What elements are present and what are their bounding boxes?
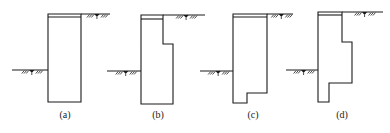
retained-ground-surface — [267, 14, 293, 19]
panel-label-a: (a) — [59, 109, 70, 121]
figure-canvas: (a) (b) (c) (d) — [0, 0, 390, 133]
wall-outline — [233, 14, 267, 103]
panel-label-d: (d) — [336, 109, 348, 121]
retaining-wall-figure: (a) (b) (c) (d) — [0, 0, 390, 133]
panel-label-b: (b) — [152, 109, 164, 121]
water-table-icon — [29, 70, 34, 75]
retained-ground-surface — [163, 15, 205, 20]
panel-b — [107, 15, 205, 104]
excavation-ground-surface — [107, 71, 141, 76]
water-table-icon — [216, 71, 221, 76]
water-table-icon — [362, 12, 367, 17]
water-table-icon — [123, 71, 128, 76]
excavation-ground-surface — [286, 70, 318, 75]
wall-outline — [141, 15, 173, 104]
wall-outline — [318, 12, 352, 102]
excavation-ground-surface — [200, 71, 233, 76]
excavation-ground-surface — [12, 70, 48, 75]
water-table-icon — [94, 14, 99, 19]
water-table-icon — [301, 70, 306, 75]
retained-ground-surface — [342, 12, 383, 17]
wall-outline — [48, 14, 81, 102]
panel-label-c: (c) — [247, 109, 258, 121]
panel-d — [286, 12, 383, 102]
panel-a — [12, 14, 110, 102]
water-table-icon — [184, 15, 189, 20]
retained-ground-surface — [81, 14, 110, 19]
panel-c — [200, 14, 293, 103]
water-table-icon — [279, 14, 284, 19]
